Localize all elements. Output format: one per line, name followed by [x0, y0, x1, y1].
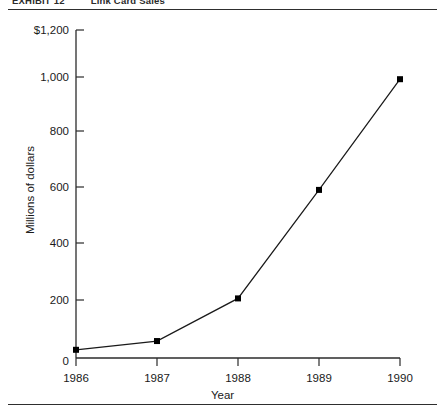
y-tick-label-400: 400: [50, 237, 69, 249]
x-tick-label-1987: 1987: [144, 372, 170, 384]
x-tick-label-1990: 1990: [387, 372, 413, 384]
footer-divider-bottom: [8, 404, 437, 405]
y-axis-title: Millions of dollars: [24, 100, 36, 280]
x-tick-marks: [76, 358, 400, 366]
y-tick-label-1200: $1,200: [34, 24, 69, 36]
exhibit-number: EXHIBIT 12: [12, 0, 65, 6]
y-tick-label-800: 800: [50, 125, 69, 137]
y-tick-marks: [76, 30, 84, 300]
x-tick-label-1988: 1988: [225, 372, 251, 384]
data-point-1986: [73, 347, 79, 353]
exhibit-caption: Link Card Sales: [91, 0, 165, 6]
line-chart: $1,200 1,000 800 600 400 200 0 1986 1987…: [0, 14, 445, 399]
axis-lines: [76, 30, 400, 358]
data-series-line: [76, 79, 400, 350]
data-point-1988: [235, 295, 241, 301]
y-tick-label-600: 600: [50, 181, 69, 193]
y-tick-label-200: 200: [50, 294, 69, 306]
data-point-1989: [316, 187, 322, 193]
exhibit-page: EXHIBIT 12Link Card Sales: [0, 0, 445, 418]
chart-canvas: $1,200 1,000 800 600 400 200 0 1986 1987…: [0, 14, 445, 399]
x-axis-title: Year: [0, 389, 445, 401]
x-tick-label-1986: 1986: [63, 372, 89, 384]
y-tick-label-0: 0: [63, 355, 69, 367]
exhibit-header: EXHIBIT 12Link Card Sales: [12, 0, 165, 7]
header-divider-top: [8, 9, 437, 10]
data-point-1987: [154, 338, 160, 344]
x-tick-label-1989: 1989: [306, 372, 332, 384]
y-tick-label-1000: 1,000: [40, 71, 69, 83]
data-point-1990: [397, 76, 403, 82]
data-point-markers: [73, 76, 403, 353]
